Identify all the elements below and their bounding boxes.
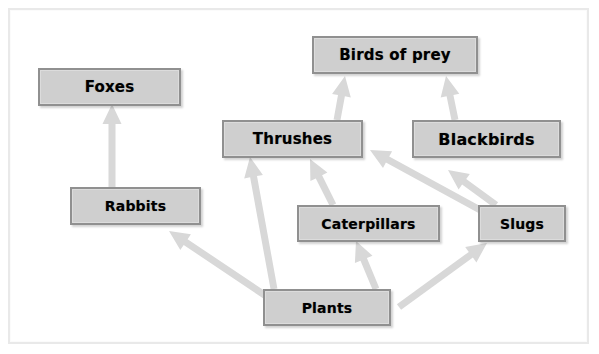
node-label: Thrushes bbox=[253, 130, 332, 148]
arrow-rabbits-to-foxes bbox=[103, 104, 122, 187]
food-web-diagram: Birds of preyFoxesThrushesBlackbirdsRabb… bbox=[0, 0, 599, 354]
node-foxes[interactable]: Foxes bbox=[38, 68, 181, 106]
node-label: Foxes bbox=[85, 78, 135, 96]
node-label: Rabbits bbox=[105, 198, 167, 214]
arrow-plants-to-thrushes bbox=[244, 157, 277, 290]
node-label: Slugs bbox=[500, 216, 544, 232]
node-thrushes[interactable]: Thrushes bbox=[222, 120, 363, 158]
node-slugs[interactable]: Slugs bbox=[478, 205, 566, 242]
arrow-plants-to-rabbits bbox=[169, 231, 268, 299]
node-label: Blackbirds bbox=[438, 130, 534, 149]
node-caterpillars[interactable]: Caterpillars bbox=[297, 205, 440, 242]
arrow-plants-to-slugs bbox=[397, 243, 487, 310]
node-label: Caterpillars bbox=[321, 216, 415, 232]
node-label: Plants bbox=[302, 300, 353, 316]
node-label: Birds of prey bbox=[339, 46, 451, 64]
arrow-blackbirds-to-birds_of_prey bbox=[441, 76, 460, 121]
node-plants[interactable]: Plants bbox=[263, 289, 391, 326]
node-blackbirds[interactable]: Blackbirds bbox=[412, 120, 561, 158]
node-rabbits[interactable]: Rabbits bbox=[70, 187, 201, 225]
arrow-plants-to-caterpillars bbox=[355, 241, 379, 290]
arrow-thrushes-to-birds_of_prey bbox=[332, 76, 351, 121]
node-birds_of_prey[interactable]: Birds of prey bbox=[312, 36, 478, 74]
arrow-caterpillars-to-thrushes bbox=[310, 159, 336, 207]
